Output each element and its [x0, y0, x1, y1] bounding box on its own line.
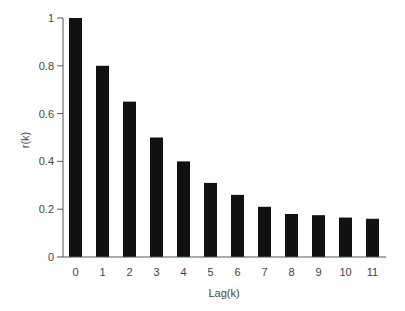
y-tick-label: 1 [48, 12, 54, 24]
y-tick-label: 0.4 [39, 155, 54, 167]
x-tick-label: 0 [72, 266, 78, 278]
x-tick-label: 10 [339, 266, 351, 278]
bar-lag-11 [366, 219, 379, 257]
x-tick-label: 2 [126, 266, 132, 278]
y-axis-label: r(k) [19, 132, 31, 149]
x-tick-label: 9 [315, 266, 321, 278]
bar-lag-1 [96, 66, 109, 257]
bar-lag-2 [123, 102, 136, 257]
y-tick-label: 0.8 [39, 60, 54, 72]
x-tick-label: 1 [99, 266, 105, 278]
bar-lag-3 [150, 138, 163, 258]
bar-lag-8 [285, 214, 298, 257]
y-ticks-group: 00.20.40.60.81 [39, 12, 63, 263]
bar-lag-0 [69, 18, 82, 257]
x-tick-label: 7 [261, 266, 267, 278]
x-axis-label: Lag(k) [208, 287, 239, 299]
bar-lag-10 [339, 218, 352, 257]
autocorrelation-bar-chart: 00.20.40.60.81 01234567891011 Lag(k) r(k… [0, 0, 405, 311]
bar-lag-4 [177, 161, 190, 257]
x-tick-label: 6 [234, 266, 240, 278]
bar-lag-6 [231, 195, 244, 257]
y-tick-label: 0 [48, 251, 54, 263]
x-tick-label: 8 [288, 266, 294, 278]
bar-lag-7 [258, 207, 271, 257]
x-tick-label: 3 [153, 266, 159, 278]
bar-lag-5 [204, 183, 217, 257]
y-tick-label: 0.6 [39, 108, 54, 120]
x-tick-label: 11 [367, 266, 378, 278]
bars-group [69, 18, 379, 257]
y-tick-label: 0.2 [39, 203, 54, 215]
x-tick-label: 5 [207, 266, 213, 278]
bar-lag-9 [312, 215, 325, 257]
x-tick-label: 4 [180, 266, 186, 278]
x-ticks-group: 01234567891011 [72, 266, 378, 278]
